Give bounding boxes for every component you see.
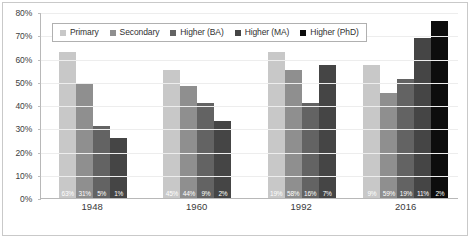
bar-value-label: 9%	[201, 191, 210, 198]
bar-value-label: 16%	[304, 191, 316, 198]
bar-value-label: 44%	[183, 191, 195, 198]
bar-value-label: 63%	[62, 191, 74, 198]
y-axis-tick	[38, 13, 41, 14]
y-axis-tick-label: 60%	[16, 55, 32, 64]
legend-label: Primary	[70, 28, 99, 37]
y-axis-tick-label: 20%	[16, 148, 32, 157]
bar-value-label: 58%	[287, 191, 299, 198]
gridline	[41, 106, 458, 107]
bar[interactable]: 5%	[93, 126, 110, 198]
bar-value-label: 9%	[367, 191, 376, 198]
x-axis-tick-label: 2016	[354, 202, 459, 222]
bar[interactable]: 2%	[431, 21, 448, 198]
y-axis-tick-label: 40%	[16, 102, 32, 111]
legend-item[interactable]: Primary	[60, 28, 99, 37]
y-axis-tick-label: 0%	[20, 195, 32, 204]
legend-label: Secondary	[120, 28, 160, 37]
bar[interactable]: 1%	[110, 138, 127, 198]
legend-swatch-icon	[300, 30, 306, 36]
bar-value-label: 5%	[97, 191, 106, 198]
gridline	[41, 129, 458, 130]
gridline	[41, 60, 458, 61]
chart-legend: PrimarySecondaryHigher (BA)Higher (MA)Hi…	[52, 23, 367, 42]
bar-value-label: 1%	[114, 191, 123, 198]
legend-swatch-icon	[110, 30, 116, 36]
y-axis-tick	[38, 83, 41, 84]
bar-value-label: 7%	[323, 191, 332, 198]
bar[interactable]: 16%	[302, 103, 319, 198]
x-axis-tick-label: 1960	[145, 202, 250, 222]
y-axis-tick	[38, 36, 41, 37]
y-axis-tick	[38, 106, 41, 107]
legend-item[interactable]: Secondary	[110, 28, 160, 37]
gridline	[41, 13, 458, 14]
bar-value-label: 59%	[383, 191, 395, 198]
legend-label: Higher (MA)	[245, 28, 290, 37]
bar[interactable]: 2%	[214, 121, 231, 198]
bar-value-label: 11%	[417, 191, 429, 198]
y-axis-tick	[38, 176, 41, 177]
legend-label: Higher (PhD)	[310, 28, 358, 37]
y-axis-tick-label: 70%	[16, 32, 32, 41]
bar-value-label: 19%	[400, 191, 412, 198]
y-axis-tick	[38, 60, 41, 61]
x-axis-tick-label: 1992	[249, 202, 354, 222]
bar-value-label: 45%	[166, 191, 178, 198]
y-axis-tick	[38, 199, 41, 200]
y-axis-tick	[38, 153, 41, 154]
y-axis-tick-label: 50%	[16, 79, 32, 88]
bar[interactable]: 11%	[414, 38, 431, 198]
bar[interactable]: 58%	[285, 70, 302, 198]
bar[interactable]: 45%	[163, 70, 180, 198]
gridline	[41, 153, 458, 154]
legend-swatch-icon	[235, 30, 241, 36]
y-axis-tick-label: 10%	[16, 172, 32, 181]
bar-value-label: 19%	[270, 191, 282, 198]
bar[interactable]: 44%	[180, 86, 197, 198]
bar[interactable]: 19%	[397, 79, 414, 198]
legend-label: Higher (BA)	[180, 28, 223, 37]
bar[interactable]: 31%	[76, 84, 93, 198]
bar-chart: 0%10%20%30%40%50%60%70%80% 63%31%5%1%45%…	[0, 0, 470, 238]
legend-swatch-icon	[170, 30, 176, 36]
bar-value-label: 2%	[435, 191, 444, 198]
x-axis-tick-label: 1948	[40, 202, 145, 222]
y-axis-tick-label: 80%	[16, 9, 32, 18]
y-axis-tick	[38, 129, 41, 130]
legend-item[interactable]: Higher (BA)	[170, 28, 223, 37]
legend-item[interactable]: Higher (PhD)	[300, 28, 358, 37]
bar[interactable]: 59%	[380, 93, 397, 198]
legend-item[interactable]: Higher (MA)	[235, 28, 290, 37]
y-axis: 0%10%20%30%40%50%60%70%80%	[0, 13, 36, 199]
legend-swatch-icon	[60, 30, 66, 36]
gridline	[41, 176, 458, 177]
bar[interactable]: 7%	[319, 65, 336, 198]
bar[interactable]: 9%	[197, 103, 214, 198]
y-axis-tick-label: 30%	[16, 125, 32, 134]
bar[interactable]: 9%	[363, 65, 380, 198]
gridline	[41, 83, 458, 84]
bar-value-label: 2%	[218, 191, 227, 198]
bar-value-label: 31%	[79, 191, 91, 198]
x-axis: 1948196019922016	[40, 202, 458, 222]
